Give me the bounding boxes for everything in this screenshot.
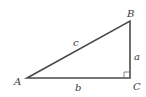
triangle-diagram: B a C A b c <box>0 0 146 97</box>
side-label-b: b <box>75 82 81 93</box>
right-angle-marker <box>124 72 130 78</box>
vertex-label-b: B <box>126 8 134 19</box>
vertex-label-a: A <box>13 76 21 87</box>
triangle-shape <box>27 21 130 78</box>
vertex-label-c: C <box>133 81 141 92</box>
side-label-c: c <box>73 37 79 48</box>
side-label-a: a <box>134 51 140 62</box>
